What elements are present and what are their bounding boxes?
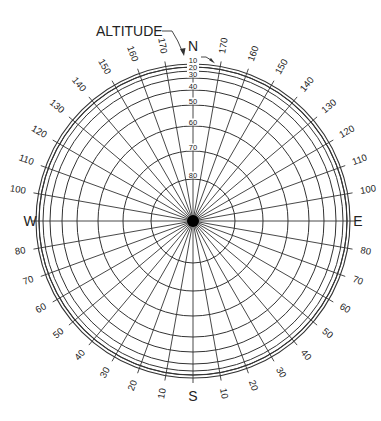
azimuth-label: 100 — [359, 182, 377, 196]
azimuth-label: 20 — [247, 379, 261, 393]
center-dot — [187, 215, 199, 227]
azimuth-label: 120 — [30, 122, 49, 139]
azimuth-label: 10 — [218, 387, 231, 399]
azimuth-label: 40 — [299, 347, 314, 362]
azimuth-label: 110 — [351, 152, 369, 168]
altitude-title: ALTITUDE — [96, 23, 163, 39]
azimuth-label: 100 — [9, 182, 27, 196]
azimuth-label: 20 — [125, 379, 139, 393]
altitude-label-50: 50 — [189, 97, 197, 106]
azimuth-label: 150 — [272, 57, 289, 76]
cardinal-south: S — [188, 388, 197, 404]
altitude-label-40: 40 — [189, 82, 197, 91]
azimuth-label: 60 — [338, 300, 353, 315]
azimuth-label: 70 — [351, 273, 365, 287]
azimuth-label: 40 — [72, 347, 87, 362]
altitude-label-60: 60 — [189, 118, 197, 127]
azimuth-label: 140 — [70, 74, 89, 93]
azimuth-label: 140 — [297, 74, 316, 93]
azimuth-label: 80 — [360, 244, 372, 257]
azimuth-label: 30 — [274, 365, 289, 380]
cardinal-east: E — [353, 213, 362, 229]
azimuth-label: 80 — [14, 244, 26, 257]
azimuth-label: 110 — [17, 152, 35, 168]
altitude-label-30: 30 — [189, 70, 197, 79]
cardinal-west: W — [23, 213, 37, 229]
altitude-label-70: 70 — [189, 143, 197, 152]
azimuth-label: 170 — [216, 37, 230, 55]
azimuth-label: 120 — [337, 122, 356, 139]
azimuth-label: 160 — [245, 44, 261, 63]
azimuth-label: 50 — [51, 325, 66, 340]
azimuth-label: 130 — [319, 97, 338, 116]
cardinal-north: N — [188, 38, 198, 54]
azimuth-label: 10 — [155, 387, 168, 399]
azimuth-label: 130 — [48, 97, 67, 116]
altitude-arrowhead — [180, 48, 186, 56]
azimuth-label: 150 — [96, 57, 113, 76]
altitude-label-80: 80 — [189, 171, 197, 180]
azimuth-label: 170 — [156, 37, 170, 55]
azimuth-label: 50 — [320, 325, 335, 340]
azimuth-label: 60 — [33, 300, 48, 315]
azimuth-label: 70 — [21, 273, 35, 287]
azimuth-label: 160 — [125, 44, 141, 63]
azimuth-label: 30 — [97, 365, 112, 380]
sun-path-polar-chart: 1701601501401301201101008070605040302010… — [0, 0, 381, 421]
